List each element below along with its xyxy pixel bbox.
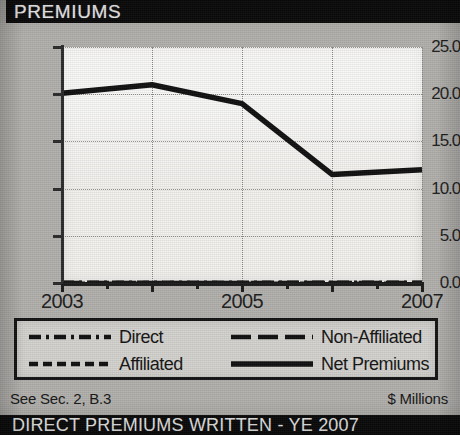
y-axis-tick-label: 10.0	[408, 179, 460, 199]
page-title: PREMIUMS	[14, 1, 121, 23]
x-axis-tick-label: 2003	[41, 290, 83, 313]
long-dash-line-icon	[229, 328, 315, 346]
short-dash-line-icon	[27, 355, 113, 373]
chart-legend: DirectNon-AffiliatedAffiliatedNet Premiu…	[14, 318, 438, 380]
chart-card: PREMIUMS 25.020.015.010.05.00.0 20032005…	[0, 0, 460, 435]
legend-label: Non-Affiliated	[321, 327, 422, 348]
y-axis-tick-label: 5.0	[408, 226, 460, 246]
y-axis-tick-label: 15.0	[408, 131, 460, 151]
x-axis-tick	[286, 284, 289, 289]
y-axis-tick	[53, 140, 63, 143]
x-axis-tick	[331, 284, 334, 292]
x-axis-tick	[151, 284, 154, 292]
legend-label: Net Premiums	[321, 354, 429, 375]
gridline-vertical	[422, 47, 423, 283]
units-label: $ Millions	[387, 390, 448, 407]
chart-title-bar: PREMIUMS	[0, 0, 460, 23]
bottom-banner-text: DIRECT PREMIUMS WRITTEN - YE 2007	[12, 415, 359, 435]
y-axis-line	[61, 45, 64, 285]
y-axis-tick-label: 20.0	[408, 84, 460, 104]
series-lines	[62, 47, 422, 283]
chart-plot-region: 25.020.015.010.05.00.0 200320052007	[0, 23, 460, 291]
solid-line-icon	[229, 355, 315, 373]
y-axis-tick	[53, 46, 63, 49]
y-axis-tick-label: 25.0	[408, 37, 460, 57]
x-axis-tick-label: 2007	[401, 290, 443, 313]
x-axis-tick	[376, 284, 379, 289]
legend-label: Affiliated	[119, 354, 183, 375]
legend-item: Net Premiums	[229, 352, 429, 376]
legend-item: Direct	[27, 325, 163, 349]
title-bar-notch	[0, 0, 6, 23]
legend-item: Non-Affiliated	[229, 325, 422, 349]
dash-dot-line-icon	[27, 328, 113, 346]
legend-label: Direct	[119, 327, 163, 348]
x-axis-tick	[196, 284, 199, 289]
legend-item: Affiliated	[27, 352, 183, 376]
x-axis-tick	[106, 284, 109, 289]
bottom-banner: DIRECT PREMIUMS WRITTEN - YE 2007	[0, 415, 460, 435]
source-reference: See Sec. 2, B.3	[10, 390, 111, 407]
footer-note-row: See Sec. 2, B.3 $ Millions	[0, 388, 460, 414]
y-axis-tick	[53, 235, 63, 238]
y-axis-tick	[53, 188, 63, 191]
x-axis-tick-label: 2005	[221, 290, 263, 313]
y-axis-tick	[53, 93, 63, 96]
series-line-net-premiums	[62, 85, 422, 175]
